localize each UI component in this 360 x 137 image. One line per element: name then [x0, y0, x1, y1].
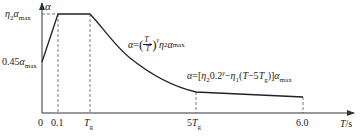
x-tick-6.0: 6.0: [296, 118, 309, 128]
y-tick-045-alpha-max: 0.45αmax: [2, 57, 37, 67]
formula-curve-descent: α=( Tg T )γη2αmax: [128, 36, 185, 53]
x-tick-tg: Tg: [84, 118, 93, 128]
x-tick-0.1: 0.1: [51, 118, 64, 128]
x-axis-label: T/s: [340, 119, 352, 129]
y-axis-label: α: [45, 1, 51, 12]
guide-lines: [42, 14, 303, 113]
x-tick-0: 0: [38, 118, 43, 128]
spectrum-curve: [42, 14, 303, 97]
x-tick-5tg: 5Tg: [187, 118, 201, 128]
y-tick-eta2-alpha-max: η2αmax: [5, 9, 31, 19]
formula-linear-descent: α=[η20.2γ−η1(T−5Tg)]αmax: [187, 71, 292, 81]
